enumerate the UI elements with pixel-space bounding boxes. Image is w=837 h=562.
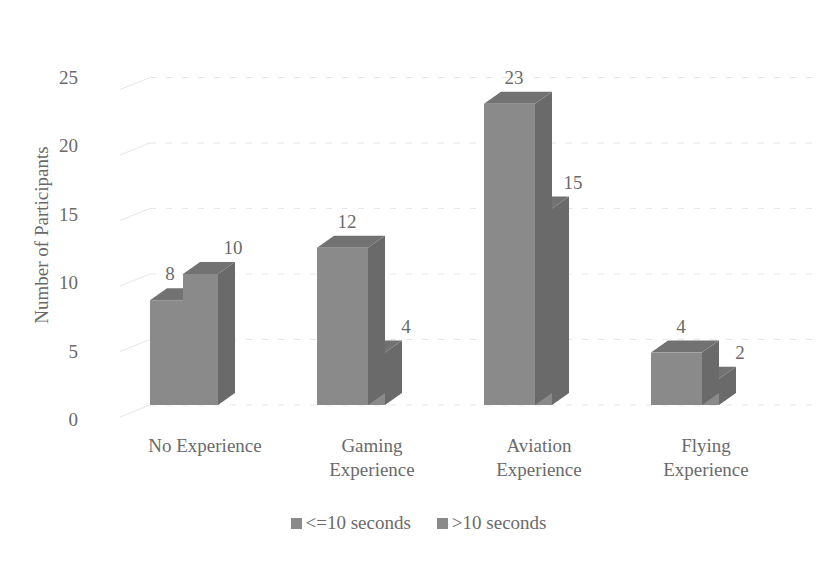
x-tick-label: No Experience	[148, 435, 261, 456]
data-label: 2	[735, 342, 745, 363]
data-label: 12	[338, 211, 357, 232]
y-tick-label: 5	[69, 341, 79, 362]
bar	[150, 300, 183, 405]
grid-line-depth	[120, 78, 150, 90]
y-axis-label: Number of Participants	[31, 146, 53, 323]
grid-line-depth	[120, 143, 150, 155]
bar	[651, 353, 702, 405]
bar-side	[552, 197, 569, 406]
bar	[317, 248, 368, 405]
grid-line-depth	[120, 209, 150, 221]
data-label: 15	[564, 172, 583, 193]
y-tick-label: 10	[59, 272, 78, 293]
legend: <=10 seconds >10 seconds	[0, 512, 837, 534]
x-tick-label: Experience	[496, 459, 581, 480]
x-tick-label: Gaming	[341, 435, 403, 456]
bar-side	[218, 262, 235, 405]
bar-side	[535, 92, 552, 405]
x-tick-label: Experience	[329, 459, 414, 480]
legend-label: >10 seconds	[452, 512, 547, 534]
x-tick-label: Aviation	[506, 435, 572, 456]
bar-side	[368, 236, 385, 405]
grid-line-depth	[120, 405, 150, 417]
y-tick-label: 0	[69, 409, 79, 430]
data-label: 8	[165, 263, 175, 284]
y-tick-label: 15	[59, 204, 78, 225]
legend-swatch-icon	[291, 518, 302, 529]
y-tick-label: 20	[59, 135, 78, 156]
bar	[484, 104, 535, 405]
grid-line-depth	[120, 274, 150, 286]
x-tick-label: Experience	[663, 459, 748, 480]
data-label: 23	[505, 67, 524, 88]
grid-line-depth	[120, 340, 150, 352]
y-tick-label: 25	[59, 67, 78, 88]
x-tick-label: Flying	[681, 435, 731, 456]
legend-item-gt10: >10 seconds	[437, 512, 547, 534]
data-label: 4	[676, 316, 686, 337]
legend-label: <=10 seconds	[306, 512, 411, 534]
legend-item-le10: <=10 seconds	[291, 512, 411, 534]
bar-chart: 0510152025810No Experience412GamingExper…	[0, 0, 837, 505]
data-label: 10	[224, 237, 243, 258]
data-label: 4	[401, 316, 411, 337]
bar	[183, 274, 218, 405]
legend-swatch-icon	[437, 518, 448, 529]
